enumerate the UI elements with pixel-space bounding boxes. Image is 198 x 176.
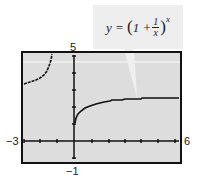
graph-figure: y = (1 + 1 x ) x — [0, 0, 198, 176]
xmin-label: −3 — [6, 135, 19, 147]
ymax-label: 5 — [70, 41, 76, 53]
xmax-label: 6 — [184, 135, 190, 147]
graph-svg — [0, 0, 198, 176]
plot-area — [22, 52, 181, 163]
ymin-label: −1 — [66, 165, 79, 176]
